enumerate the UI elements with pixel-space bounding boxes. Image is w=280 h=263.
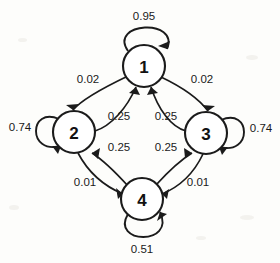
arrowhead-edge-3-1: [147, 87, 158, 95]
edge-1-to-3: 0.02: [161, 73, 215, 111]
edge-3-to-1: 0.25: [147, 87, 186, 131]
self-loop-label-3: 0.74: [250, 122, 273, 134]
edge-label-2-1: 0.25: [108, 110, 130, 122]
edge-label-1-2: 0.02: [77, 73, 99, 85]
state-node-4-label: 4: [137, 191, 147, 210]
state-node-4[interactable]: 4: [121, 178, 163, 220]
state-node-3-label: 3: [201, 125, 210, 144]
edge-label-4-2: 0.25: [108, 141, 130, 153]
edge-2-to-1: 0.25: [95, 87, 140, 131]
arrowhead-edge-2-1: [129, 87, 140, 95]
state-node-2-label: 2: [69, 124, 78, 143]
state-diagram-canvas: 0.95 0.74 0.74 0.51 0.02: [0, 0, 280, 263]
edge-3-to-4: 0.01: [162, 154, 209, 199]
state-transition-diagram: 0.95 0.74 0.74 0.51 0.02: [0, 0, 280, 263]
edge-label-3-4: 0.01: [187, 176, 209, 188]
edge-path-3-1: [151, 87, 186, 131]
edge-path-2-1: [95, 87, 136, 131]
state-node-3[interactable]: 3: [185, 112, 227, 154]
edge-label-1-3: 0.02: [191, 73, 213, 85]
self-loop-label-1: 0.95: [133, 10, 155, 22]
self-loop-label-2: 0.74: [9, 121, 32, 133]
edge-label-2-4: 0.01: [74, 176, 96, 188]
edge-label-3-1: 0.25: [155, 110, 177, 122]
state-node-1[interactable]: 1: [123, 45, 165, 87]
edge-1-to-2: 0.02: [66, 73, 128, 110]
arrowhead-edge-1-3: [202, 105, 215, 111]
state-node-1-label: 1: [139, 58, 148, 77]
edge-2-to-4: 0.01: [74, 153, 123, 199]
self-loop-label-4: 0.51: [131, 243, 153, 255]
state-node-2[interactable]: 2: [53, 111, 95, 153]
edge-label-4-3: 0.25: [155, 141, 177, 153]
